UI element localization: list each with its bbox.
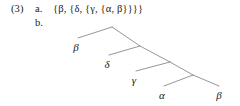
tree-branch	[140, 46, 170, 62]
tree-branch	[112, 27, 140, 46]
tree-branch	[164, 75, 193, 86]
tree-branch	[109, 46, 140, 55]
tree-branch	[78, 27, 112, 38]
example-figure: (3) a. {β, {δ, {γ, {α, β}}}} b. βδγαβ	[0, 0, 240, 106]
tree-leaf-label: β	[216, 90, 221, 101]
tree-leaf-label: β	[73, 42, 78, 53]
tree-branch	[193, 75, 219, 86]
tree-branch-group	[78, 27, 219, 86]
syntax-tree-diagram	[0, 0, 240, 106]
tree-branch	[170, 62, 193, 75]
tree-leaf-label: γ	[132, 75, 136, 86]
tree-branch	[136, 62, 170, 71]
tree-leaf-label: δ	[104, 59, 109, 70]
tree-leaf-label: α	[159, 90, 165, 101]
